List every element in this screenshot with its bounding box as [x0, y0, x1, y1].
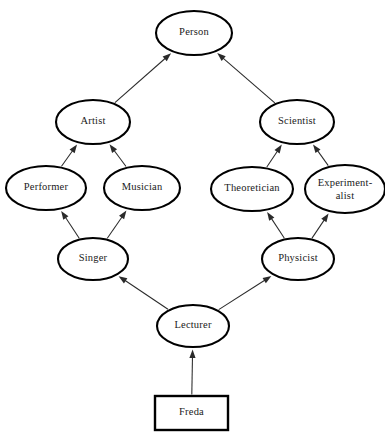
node-label: Freda: [179, 406, 204, 417]
node-artist[interactable]: Artist: [56, 100, 130, 144]
edge-experimentalist-to-scientist: [313, 144, 328, 165]
edge-musician-to-artist: [110, 144, 127, 166]
node-label: Performer: [24, 181, 69, 192]
edge-singer-to-performer: [61, 211, 79, 238]
edge-freda-to-lecturer: [189, 350, 195, 395]
node-freda[interactable]: Freda: [155, 396, 228, 430]
node-singer[interactable]: Singer: [58, 238, 128, 280]
arrowhead-icon: [110, 144, 118, 153]
edge-line: [113, 149, 126, 166]
node-label: Musician: [122, 181, 163, 192]
node-physicist[interactable]: Physicist: [262, 238, 334, 280]
edge-line: [65, 216, 79, 238]
edge-line: [115, 58, 166, 103]
node-label: Singer: [79, 252, 108, 263]
edge-line: [124, 280, 168, 309]
node-performer[interactable]: Performer: [6, 166, 86, 210]
node-theoretician[interactable]: Theoretician: [211, 167, 293, 211]
arrowhead-icon: [275, 145, 282, 154]
diagram-canvas: PersonArtistScientistPerformerMusicianTh…: [0, 0, 385, 440]
arrowhead-icon: [263, 276, 272, 283]
diagram-svg: PersonArtistScientistPerformerMusicianTh…: [0, 0, 385, 440]
arrowhead-icon: [70, 144, 77, 153]
node-label: Artist: [80, 115, 105, 126]
nodes-layer: PersonArtistScientistPerformerMusicianTh…: [6, 11, 385, 430]
edge-line: [317, 150, 328, 166]
edge-line: [192, 356, 193, 395]
edge-physicist-to-experimentalist: [312, 213, 329, 238]
node-label: Theoretician: [224, 182, 280, 193]
edge-line: [107, 216, 122, 238]
edge-artist-to-person: [115, 53, 171, 102]
node-label: Lecturer: [174, 319, 211, 330]
node-scientist[interactable]: Scientist: [260, 100, 334, 144]
edge-line: [62, 150, 74, 167]
arrowhead-icon: [267, 212, 274, 221]
arrowhead-icon: [119, 276, 128, 283]
arrowhead-icon: [61, 211, 68, 220]
node-label: Scientist: [278, 115, 316, 126]
node-person[interactable]: Person: [156, 11, 232, 55]
node-label-line2: alist: [336, 190, 355, 201]
edge-line: [222, 57, 275, 102]
edge-line: [271, 217, 285, 238]
edge-singer-to-musician: [107, 211, 126, 239]
node-label: Person: [179, 26, 209, 37]
arrowhead-icon: [119, 211, 126, 220]
node-label: Physicist: [278, 252, 318, 263]
edge-line: [312, 219, 325, 238]
edge-performer-to-artist: [62, 144, 78, 166]
node-label: Experiment-: [318, 177, 373, 188]
edge-lecturer-to-physicist: [219, 276, 272, 310]
edge-scientist-to-person: [217, 53, 275, 103]
node-lecturer[interactable]: Lecturer: [157, 305, 229, 347]
edge-line: [219, 279, 266, 309]
arrowhead-icon: [189, 350, 195, 359]
node-musician[interactable]: Musician: [104, 166, 180, 210]
edge-theoretician-to-scientist: [267, 145, 282, 167]
edge-line: [267, 150, 278, 167]
arrowhead-icon: [313, 144, 320, 153]
node-experimentalist[interactable]: Experiment-alist: [305, 165, 385, 213]
arrowhead-icon: [321, 213, 328, 222]
edge-physicist-to-theoretician: [267, 212, 284, 238]
edge-lecturer-to-singer: [119, 276, 168, 309]
